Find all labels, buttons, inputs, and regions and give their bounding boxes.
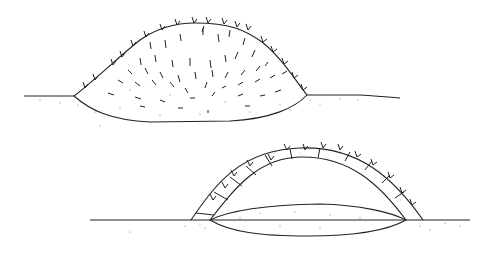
pit-outline [74,95,307,122]
solid-mound [24,17,400,127]
surface-twigs [83,17,307,90]
ground-line-right [307,95,400,98]
arched-covering [90,142,470,236]
diagram [0,0,489,261]
interior-twigs [108,26,287,113]
arch-outer [191,148,423,220]
